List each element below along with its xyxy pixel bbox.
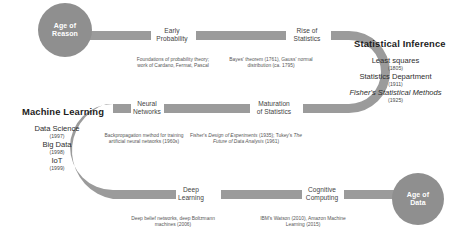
- era-entry: Big Data(1998): [5, 140, 109, 156]
- era-entry: Fisher's Statistical Methods(1925): [330, 88, 461, 104]
- milestone-label-neural-networks: Neural Networks: [125, 100, 169, 115]
- era-title-statistical-inference: Statistical Inference: [354, 38, 446, 49]
- era-title-machine-learning: Machine Learning: [22, 106, 104, 117]
- era-entry-name: Fisher's Statistical Methods: [349, 88, 441, 97]
- era-entry-name: IoT: [52, 156, 63, 165]
- milestone-label-cognitive-computing: Cognitive Computing: [295, 186, 349, 201]
- era-entry-year: (1911): [330, 81, 461, 88]
- milestone-label-deep-learning: Deep Learning: [168, 186, 214, 201]
- era-entry-year: (1805): [330, 65, 461, 72]
- description-fragment: Fisher's: [190, 133, 208, 138]
- endcap-label-age-of-data: Age of Data: [392, 191, 444, 207]
- milestone-label-early-probability: Early Probability: [144, 27, 200, 42]
- milestone-description-cognitive-computing: IBM's Watson (2010), Amazon Machine Lear…: [254, 216, 352, 228]
- ribbon-segment-row2-b: [164, 104, 250, 113]
- milestone-label-rise-of-statistics: Rise of Statistics: [281, 27, 333, 42]
- description-fragment: (1961): [264, 139, 280, 144]
- era-list-statistical-inference: Least squares(1805)Statistics Department…: [330, 56, 461, 104]
- era-entry-year: (1999): [5, 165, 109, 172]
- milestone-description-maturation-of-statistics: Fisher's Design of Experiments (1935); T…: [190, 133, 302, 145]
- milestone-description-early-probability: Foundations of probability theory; work …: [133, 57, 213, 69]
- era-entry: Data Science(1997): [5, 124, 109, 140]
- era-entry: Statistics Department(1911): [330, 72, 461, 88]
- description-fragment: Design of Experiments: [208, 133, 257, 138]
- ribbon-segment-row1-b: [196, 31, 286, 40]
- era-list-machine-learning: Data Science(1997)Big Data(1998)IoT(1999…: [5, 124, 109, 172]
- era-entry-name: Statistics Department: [359, 72, 431, 81]
- era-entry: IoT(1999): [5, 156, 109, 172]
- era-entry-name: Big Data: [42, 140, 71, 149]
- ribbon-segment-row3-b: [221, 190, 302, 199]
- era-entry-year: (1998): [5, 149, 109, 156]
- era-entry-year: (1925): [330, 97, 461, 104]
- era-entry: Least squares(1805): [330, 56, 461, 72]
- milestone-description-rise-of-statistics: Bayes' theorem (1761), Gauss' normal dis…: [226, 57, 316, 69]
- era-entry-name: Least squares: [372, 56, 420, 65]
- ribbon-segment-row2-a: [303, 104, 347, 113]
- era-entry-name: Data Science: [34, 124, 79, 133]
- era-entry-year: (1997): [5, 133, 109, 140]
- milestone-description-neural-networks: Backpropagation method for training arti…: [97, 133, 191, 145]
- description-fragment: (1935); Tukey's: [258, 133, 294, 138]
- milestone-description-deep-learning: Deep belief networks, deep Boltzmann mac…: [123, 216, 223, 228]
- milestone-label-maturation-of-statistics: Maturation of Statistics: [243, 100, 305, 115]
- endcap-label-age-of-reason: Age of Reason: [38, 22, 92, 38]
